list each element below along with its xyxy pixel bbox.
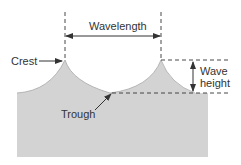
wave-diagram: Wavelength Crest Wave height Trough [0,0,241,165]
trough-label: Trough [61,108,95,120]
wave-height-label-line2: height [200,77,230,89]
crest-label: Crest [11,55,37,67]
wavelength-label: Wavelength [89,20,147,32]
wave-height-label-line1: Wave [200,65,228,77]
water-body [17,60,208,157]
